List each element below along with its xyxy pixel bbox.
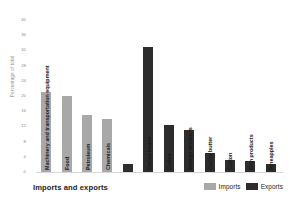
- bar-label-pineapples: Pineapples: [268, 142, 274, 170]
- chart-title: Imports and exports: [33, 183, 108, 192]
- y-tick-8: 8: [24, 140, 26, 144]
- y-axis-label: Percentage of total: [10, 41, 15, 113]
- bar-label-coffee: Coffee: [166, 153, 172, 170]
- legend-swatch-exports: [246, 183, 258, 190]
- bar-unlabeled-4: [123, 164, 133, 172]
- y-axis: 4036322824201612840: [0, 14, 34, 178]
- y-tick-24: 24: [21, 79, 26, 83]
- y-tick-28: 28: [21, 64, 26, 68]
- legend: Imports Exports: [204, 183, 283, 190]
- y-tick-20: 20: [21, 94, 26, 98]
- y-tick-0: 0: [24, 170, 26, 174]
- y-tick-36: 36: [21, 33, 26, 37]
- y-tick-12: 12: [21, 124, 26, 128]
- bar-label-fish-products: Fish products: [248, 134, 254, 170]
- bar-label-cocoa-butter: Cocoa butter: [207, 137, 213, 170]
- plot-area: Machinery and transportation equipmentFo…: [36, 20, 281, 172]
- y-tick-4: 4: [24, 155, 26, 159]
- bar-label-food: Food: [64, 157, 70, 170]
- bar-label-cocoa-beans: Cocoa beans: [146, 136, 152, 170]
- y-tick-16: 16: [21, 109, 26, 113]
- x-axis-baseline: [36, 172, 283, 173]
- bar-chart-figure: 4036322824201612840 Percentage of total …: [0, 0, 293, 208]
- legend-label-exports: Exports: [261, 183, 283, 190]
- legend-label-imports: Imports: [219, 183, 241, 190]
- bar-label-chemicals: Chemicals: [105, 143, 111, 170]
- y-tick-40: 40: [21, 18, 26, 22]
- bar-label-energy-products: Energy products: [187, 127, 193, 170]
- legend-swatch-imports: [204, 183, 216, 190]
- legend-item-imports: Imports: [204, 183, 241, 190]
- bar-label-cotton: Cotton: [227, 153, 233, 170]
- bar-label-petroleum: Petroleum: [85, 144, 91, 170]
- bar-label-machinery-and-transportation-equipment: Machinery and transportation equipment: [44, 65, 50, 170]
- legend-item-exports: Exports: [246, 183, 283, 190]
- y-tick-32: 32: [21, 48, 26, 52]
